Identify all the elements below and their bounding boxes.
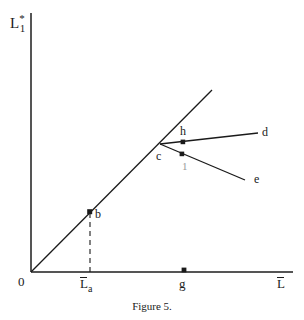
point-label-b: b <box>95 208 101 220</box>
point-label-one: 1 <box>182 161 188 172</box>
point-marker-h <box>181 140 186 145</box>
x-axis-label-base: L <box>277 276 285 290</box>
point-label-c: c <box>156 150 161 162</box>
point-label-e: e <box>254 173 259 185</box>
point-marker-one <box>180 152 185 157</box>
y-axis-label-base: L <box>10 15 19 31</box>
figure-caption: Figure 5. <box>0 300 304 312</box>
y-axis-label-subscript: 1 <box>20 22 26 34</box>
point-label-d: d <box>262 126 268 138</box>
y-axis-label: L*1 <box>10 16 25 31</box>
tick-label-g: g <box>179 277 186 290</box>
ray-c-to-e <box>160 144 245 180</box>
point-marker-g <box>182 268 187 273</box>
figure-plot-area <box>0 0 304 320</box>
tick-label-la-base: L <box>80 276 88 290</box>
point-label-h: h <box>180 125 186 137</box>
tick-label-la: La <box>80 276 92 290</box>
ray-c-to-d <box>160 133 258 144</box>
point-marker-b <box>87 209 92 214</box>
origin-label: 0 <box>18 275 25 288</box>
diagonal-45-degree-line <box>31 90 212 272</box>
figure-container: L*1 0 La g L b c h 1 d e Figure 5. <box>0 0 304 320</box>
tick-label-la-subscript: a <box>88 283 92 294</box>
x-axis-label: L <box>277 276 285 290</box>
